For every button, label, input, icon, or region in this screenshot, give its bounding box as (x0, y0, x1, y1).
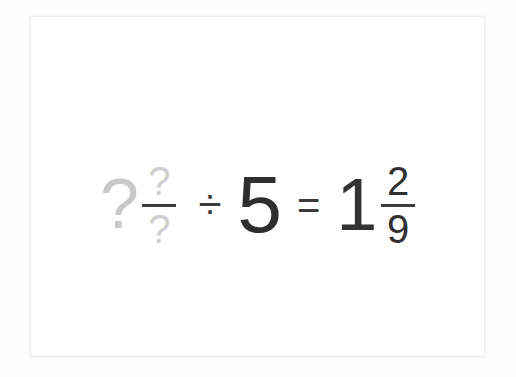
result-numerator: 2 (387, 161, 409, 202)
equation-expression: ? ? ? ÷ 5 = 1 2 9 (31, 145, 484, 265)
worksheet-canvas: ? ? ? ÷ 5 = 1 2 9 (0, 0, 516, 377)
result-mixed-number: 1 2 9 (336, 161, 415, 250)
left-operand-fraction[interactable]: ? ? (142, 161, 176, 250)
left-operand-whole-placeholder[interactable]: ? (100, 175, 138, 235)
equals-operator-icon: = (297, 185, 320, 225)
left-operand-mixed-number[interactable]: ? ? ? (100, 161, 176, 250)
result-fraction: 2 9 (381, 161, 415, 250)
left-operand-numerator-placeholder[interactable]: ? (148, 161, 170, 202)
result-denominator: 9 (387, 209, 409, 250)
result-whole-number: 1 (336, 174, 377, 237)
division-operator-icon: ÷ (198, 184, 221, 226)
right-operand-value: 5 (237, 171, 281, 239)
problem-card: ? ? ? ÷ 5 = 1 2 9 (30, 16, 485, 357)
left-operand-denominator-placeholder[interactable]: ? (148, 209, 170, 250)
